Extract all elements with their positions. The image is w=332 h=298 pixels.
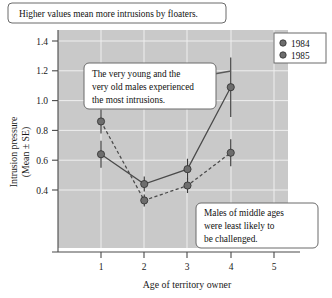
annotation-middle-ages-line3: be challenged. bbox=[204, 234, 258, 244]
annotation-middle-ages-line1: Males of middle ages bbox=[204, 208, 284, 218]
x-tick-label: 2 bbox=[142, 262, 147, 272]
y-axis-ticks bbox=[52, 41, 58, 190]
legend-marker-1985 bbox=[280, 52, 286, 58]
legend-label-1985: 1985 bbox=[291, 51, 310, 61]
y-tick-label: 1.4 bbox=[36, 37, 48, 47]
data-point-marker bbox=[97, 118, 104, 125]
y-tick-label: 0.4 bbox=[36, 186, 48, 196]
y-axis-title-line2: (Mean ± SE) bbox=[20, 127, 32, 178]
data-point-marker bbox=[227, 84, 234, 91]
x-axis-ticks bbox=[101, 252, 274, 258]
x-tick-label: 1 bbox=[99, 262, 104, 272]
data-point-marker bbox=[227, 149, 234, 156]
data-point-marker bbox=[141, 180, 148, 187]
annotation-floaters: Higher values mean more intrusions by fl… bbox=[8, 3, 226, 23]
x-tick-label: 3 bbox=[185, 262, 190, 272]
annotation-young-old-line1: The very young and the bbox=[92, 69, 180, 79]
annotation-middle-ages-line2: were least likely to bbox=[204, 221, 275, 231]
annotation-floaters-text: Higher values mean more intrusions by fl… bbox=[19, 9, 198, 19]
legend-marker-1984 bbox=[280, 40, 286, 46]
x-axis-tick-labels: 1 2 3 4 5 bbox=[99, 262, 277, 272]
y-tick-label: 1.2 bbox=[36, 66, 48, 76]
y-tick-label: 0.8 bbox=[36, 126, 48, 136]
y-axis-title: Intrusion pressure (Mean ± SE) bbox=[8, 116, 32, 187]
y-tick-label: 0.6 bbox=[36, 156, 48, 166]
chart-legend: 1984 1985 bbox=[274, 33, 326, 63]
data-point-marker bbox=[97, 151, 104, 158]
data-point-marker bbox=[184, 166, 191, 173]
x-axis-title: Age of territory owner bbox=[143, 279, 232, 290]
x-tick-label: 4 bbox=[229, 262, 234, 272]
y-tick-label: 1.0 bbox=[36, 96, 48, 106]
y-axis-tick-labels: 1.4 1.2 1.0 0.8 0.6 0.4 bbox=[36, 37, 48, 196]
annotation-young-old-line2: very old males experienced bbox=[92, 82, 194, 92]
y-axis-title-line1: Intrusion pressure bbox=[8, 116, 19, 187]
annotation-middle-ages: Males of middle ages were least likely t… bbox=[196, 203, 318, 248]
chart-figure: 1.4 1.2 1.0 0.8 0.6 0.4 Intrusion pressu… bbox=[0, 0, 332, 298]
data-point-marker bbox=[141, 197, 148, 204]
annotation-young-old: The very young and the very old males ex… bbox=[84, 63, 216, 109]
data-point-marker bbox=[184, 182, 191, 189]
annotation-young-old-line3: the most intrusions. bbox=[92, 95, 165, 105]
x-tick-label: 5 bbox=[272, 262, 277, 272]
legend-label-1984: 1984 bbox=[291, 39, 310, 49]
